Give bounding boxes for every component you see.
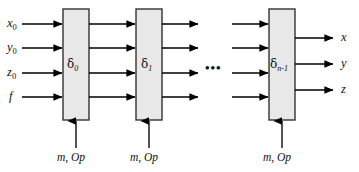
stage-2-output-stubs (162, 24, 198, 97)
output-arrows (295, 38, 333, 90)
output-label-z: z (341, 83, 346, 96)
stage-label-delta-0-sub: 0 (74, 64, 78, 73)
interstage-arrows-1-2 (89, 24, 135, 97)
diagram-svg (0, 0, 359, 172)
control-label-delta-0: m, Op (57, 152, 85, 164)
ellipsis-continuation: ••• (205, 61, 222, 74)
control-arrows (76, 121, 282, 148)
input-label-z0-sub: 0 (12, 71, 16, 81)
output-label-x: x (341, 31, 347, 44)
input-label-x0: x0 (7, 17, 17, 30)
input-label-z0: z0 (7, 66, 16, 79)
input-label-y0: y0 (7, 41, 17, 54)
control-label-delta-n-1: m, Op (263, 152, 291, 164)
stage-n-input-stubs (232, 24, 268, 97)
input-label-f-base: f (9, 89, 12, 103)
stage-label-delta-n-1-sub: n-1 (277, 64, 288, 73)
input-label-f: f (9, 90, 12, 103)
input-label-y0-base: y (7, 40, 13, 54)
input-label-y0-sub: 0 (13, 46, 17, 56)
input-label-x0-sub: 0 (13, 22, 17, 32)
input-arrows (22, 24, 62, 97)
control-label-delta-1: m, Op (130, 152, 158, 164)
stage-boxes (63, 9, 295, 120)
stage-label-delta-1-sub: 1 (148, 64, 152, 73)
stage-label-delta-0: δ0 (67, 58, 78, 70)
stage-label-delta-1: δ1 (141, 58, 152, 70)
input-label-x0-base: x (7, 16, 13, 30)
figure-canvas: x0 y0 z0 f δ0 δ1 δn-1 ••• x y z m, Op m,… (0, 0, 359, 172)
output-label-y: y (341, 57, 347, 70)
stage-label-delta-n-1: δn-1 (270, 58, 288, 70)
